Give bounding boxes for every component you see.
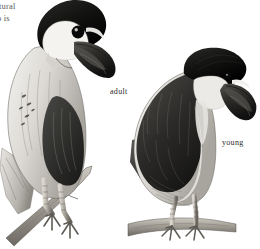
bird-illustration-artwork xyxy=(0,0,260,249)
caption-young: young xyxy=(222,138,244,147)
young-eye xyxy=(225,73,232,80)
young-bill xyxy=(220,84,256,121)
caption-adult: adult xyxy=(110,87,128,96)
young-legs xyxy=(162,196,204,240)
bleed-text-line-2: o is xyxy=(0,13,10,24)
adult-bill xyxy=(74,42,115,78)
adult-eye xyxy=(72,26,85,39)
branch-left xyxy=(6,166,92,246)
bleed-text-line-1: tural xyxy=(0,1,16,12)
adult-bird-figure xyxy=(0,0,115,246)
adult-legs xyxy=(43,180,79,238)
branch-right xyxy=(128,218,236,236)
illustration-plate: tural o is adult young xyxy=(0,0,260,249)
